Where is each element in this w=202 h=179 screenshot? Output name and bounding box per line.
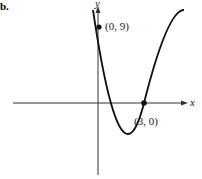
parabola-plot <box>0 0 202 179</box>
x-axis-label: x <box>190 97 195 108</box>
point-vertex <box>141 100 147 106</box>
point-y-intercept <box>96 24 101 29</box>
x-axis-arrow-icon <box>181 101 188 106</box>
point-label-y-intercept: (0, 9) <box>105 21 129 32</box>
y-axis-label: y <box>95 0 100 9</box>
point-label-vertex: (3, 0) <box>134 116 158 127</box>
